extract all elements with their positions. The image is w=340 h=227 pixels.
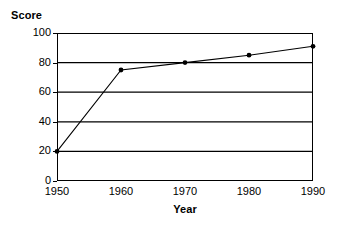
data-point-markers-group — [55, 44, 316, 154]
x-axis-title: Year — [57, 203, 313, 215]
y-tick-mark-0 — [53, 181, 57, 182]
x-tick-label-1990: 1990 — [283, 185, 340, 197]
line-chart-figure: Score 020406080100 19501960197019801990 … — [0, 0, 340, 227]
x-tick-label-1970: 1970 — [155, 185, 215, 197]
y-tick-mark-60 — [53, 92, 57, 93]
y-tick-mark-40 — [53, 122, 57, 123]
data-point-1970 — [183, 60, 188, 65]
data-point-1960 — [119, 68, 124, 73]
data-point-1980 — [247, 53, 252, 58]
x-tick-label-1960: 1960 — [91, 185, 151, 197]
y-tick-mark-20 — [53, 151, 57, 152]
y-tick-label-40: 40 — [5, 115, 51, 127]
y-axis-title: Score — [11, 9, 42, 21]
y-tick-label-20: 20 — [5, 144, 51, 156]
plot-area-svg — [57, 33, 313, 181]
x-tick-label-1950: 1950 — [27, 185, 87, 197]
y-tick-mark-80 — [53, 63, 57, 64]
x-tick-label-1980: 1980 — [219, 185, 279, 197]
gridlines-group — [57, 63, 313, 152]
y-tick-label-60: 60 — [5, 85, 51, 97]
data-point-1990 — [311, 44, 316, 49]
y-tick-mark-100 — [53, 33, 57, 34]
y-tick-label-100: 100 — [5, 26, 51, 38]
y-tick-label-80: 80 — [5, 56, 51, 68]
